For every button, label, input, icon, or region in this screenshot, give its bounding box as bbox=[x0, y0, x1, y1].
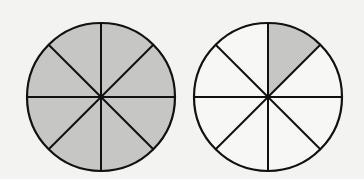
fraction-circles-figure bbox=[0, 0, 364, 179]
fraction-circles-svg bbox=[0, 0, 364, 179]
center-point bbox=[266, 95, 270, 99]
center-point bbox=[99, 95, 103, 99]
left-circle bbox=[27, 23, 175, 171]
right-circle bbox=[194, 23, 342, 171]
